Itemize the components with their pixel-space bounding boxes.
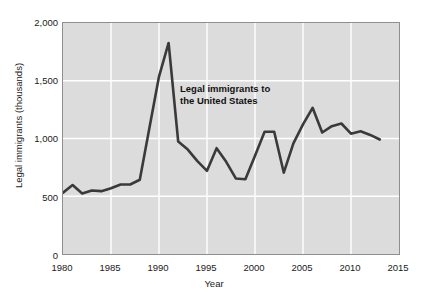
y-tick-label: 0 [6, 250, 58, 261]
x-axis-title: Year [0, 278, 428, 289]
y-tick-label: 2,000 [6, 17, 58, 28]
plot-svg [63, 23, 399, 254]
line-chart: Legal immigrants (thousands) 2,000 1,500… [0, 0, 428, 298]
y-tick-label: 1,500 [6, 75, 58, 86]
annotation-line-2: the United States [180, 95, 270, 107]
series-annotation: Legal immigrants to the United States [180, 83, 270, 107]
plot-area [62, 22, 400, 255]
y-tick-label: 500 [6, 192, 58, 203]
annotation-line-1: Legal immigrants to [180, 83, 270, 95]
gridlines [63, 23, 399, 254]
y-tick-label: 1,000 [6, 133, 58, 144]
x-tick-label: 2015 [368, 262, 428, 273]
y-axis-ticks: 2,000 1,500 1,000 500 0 [0, 0, 58, 298]
